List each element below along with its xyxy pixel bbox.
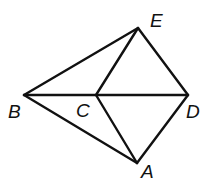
label-C: C <box>76 100 90 121</box>
segments <box>24 28 188 163</box>
label-B: B <box>8 101 21 122</box>
segment-CE <box>96 28 138 95</box>
label-A: A <box>140 161 154 181</box>
segment-CA <box>96 95 137 163</box>
segment-BE <box>24 28 138 95</box>
label-E: E <box>150 10 163 31</box>
segment-ED <box>138 28 188 95</box>
label-D: D <box>186 101 200 122</box>
geometry-diagram: E B C D A <box>0 0 209 181</box>
segment-DA <box>137 95 188 163</box>
